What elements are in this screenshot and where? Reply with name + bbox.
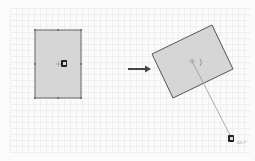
transform-arrow-icon bbox=[128, 66, 151, 73]
rotation-angle-label: -64.7° bbox=[236, 140, 247, 145]
rotated-rectangle[interactable] bbox=[152, 25, 233, 137]
rotate-cursor-icon bbox=[228, 135, 234, 142]
diagram-canvas bbox=[0, 0, 255, 161]
original-rectangle[interactable] bbox=[34, 29, 82, 99]
rotate-cursor-icon bbox=[61, 60, 67, 67]
